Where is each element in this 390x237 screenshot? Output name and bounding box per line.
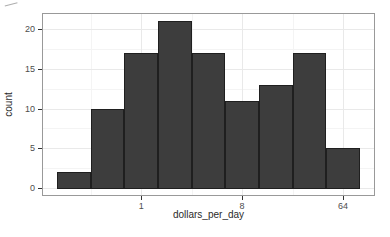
gridline-minor-y xyxy=(43,49,374,50)
histogram-chart: count dollars_per_day 051015201864 xyxy=(0,0,390,237)
x-tick-mark xyxy=(141,196,142,200)
histogram-bar xyxy=(259,85,293,189)
y-tick-label: 20 xyxy=(0,24,35,34)
corner-artifact xyxy=(3,0,17,6)
histogram-bar xyxy=(293,53,327,189)
histogram-bar xyxy=(124,53,158,189)
x-tick-label: 64 xyxy=(328,201,358,211)
y-tick-label: 0 xyxy=(0,183,35,193)
x-tick-mark xyxy=(343,196,344,200)
y-tick-label: 10 xyxy=(0,104,35,114)
histogram-bar xyxy=(326,148,360,189)
x-tick-mark xyxy=(242,196,243,200)
x-tick-label: 8 xyxy=(227,201,257,211)
x-axis-title: dollars_per_day xyxy=(42,209,375,220)
y-tick-mark xyxy=(38,29,42,30)
y-tick-mark xyxy=(38,109,42,110)
plot-panel xyxy=(42,13,375,196)
y-tick-mark xyxy=(38,69,42,70)
histogram-bar xyxy=(57,172,91,189)
histogram-bar xyxy=(91,109,125,189)
y-tick-label: 5 xyxy=(0,143,35,153)
gridline-major-y xyxy=(43,29,374,30)
y-tick-mark xyxy=(38,188,42,189)
y-tick-mark xyxy=(38,148,42,149)
histogram-bar xyxy=(192,53,226,189)
x-tick-label: 1 xyxy=(126,201,156,211)
histogram-bar xyxy=(225,101,259,189)
histogram-bar xyxy=(158,21,192,188)
y-tick-label: 15 xyxy=(0,64,35,74)
